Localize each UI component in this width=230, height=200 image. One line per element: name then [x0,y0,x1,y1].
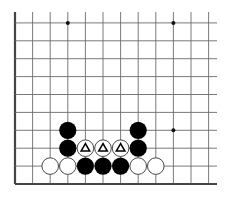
white-stone-icon [42,158,59,175]
star-point [171,21,175,25]
star-point [66,21,70,25]
black-stone[interactable] [112,158,129,175]
black-stone[interactable] [59,122,76,139]
white-stone[interactable] [60,158,77,175]
black-stone[interactable] [130,122,147,139]
white-stone[interactable] [95,140,112,157]
white-stone[interactable] [42,158,59,175]
white-stone[interactable] [148,158,165,175]
white-stone-icon [60,158,77,175]
go-board [0,0,230,200]
black-stone-icon [59,140,76,157]
white-stone[interactable] [130,158,147,175]
black-stone-icon [130,122,147,139]
black-stone[interactable] [59,140,76,157]
black-stone-icon [59,122,76,139]
grid-lines [15,12,217,184]
white-stone-icon [130,158,147,175]
black-stone-icon [130,140,147,157]
white-stone[interactable] [112,140,129,157]
black-stone-icon [94,158,111,175]
white-stone[interactable] [77,140,94,157]
black-stone[interactable] [77,158,94,175]
black-stone[interactable] [94,158,111,175]
white-stone-icon [148,158,165,175]
black-stone-icon [77,158,94,175]
black-stone[interactable] [130,140,147,157]
black-stone-icon [112,158,129,175]
star-point [171,128,175,132]
